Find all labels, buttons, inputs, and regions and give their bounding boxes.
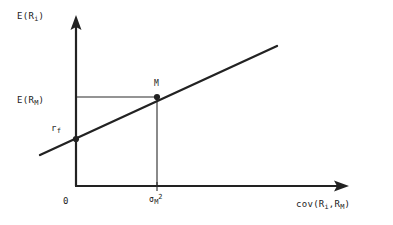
y-axis-label-text: E(R bbox=[17, 11, 34, 21]
x-axis-label-mid: ,R bbox=[329, 199, 340, 209]
market-variance-superscript: 2 bbox=[158, 193, 162, 201]
expected-return-market-text: E(R bbox=[17, 95, 34, 105]
market-point-text: M bbox=[154, 79, 159, 88]
expected-return-market-label: E(RM) bbox=[17, 96, 44, 107]
market-variance-label: σM2 bbox=[149, 194, 163, 206]
y-axis-label-paren: ) bbox=[38, 11, 44, 21]
sml-chart-svg bbox=[0, 0, 393, 225]
x-axis-label-paren: ) bbox=[344, 199, 350, 209]
risk-free-point-marker bbox=[73, 136, 79, 142]
y-axis-label: E(Ri) bbox=[17, 12, 44, 23]
x-axis-label: cov(Ri,RM) bbox=[296, 200, 350, 211]
market-point-marker bbox=[154, 94, 160, 100]
sml-figure: E(Ri) E(RM) rf M σM2 0 cov(Ri,RM) bbox=[0, 0, 393, 225]
x-axis-label-text: cov(R bbox=[296, 199, 325, 209]
market-point-label: M bbox=[154, 80, 159, 88]
origin-label-text: 0 bbox=[63, 196, 69, 206]
origin-label: 0 bbox=[63, 197, 69, 206]
risk-free-rate-label: rf bbox=[51, 124, 61, 135]
expected-return-market-paren: ) bbox=[38, 95, 44, 105]
risk-free-rate-subscript: f bbox=[57, 127, 61, 135]
